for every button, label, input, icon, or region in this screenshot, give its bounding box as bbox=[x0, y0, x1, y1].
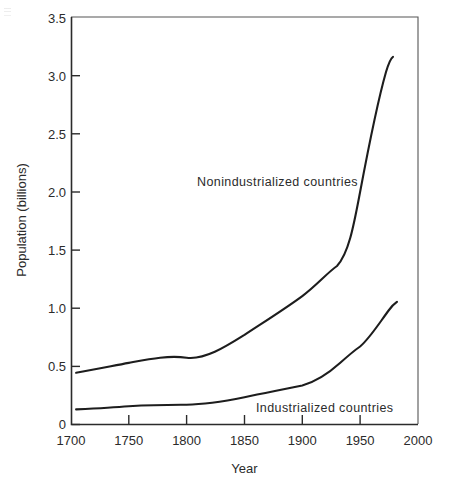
y-axis-tick-labels: 0 0.5 1.0 1.5 2.0 2.5 3.0 3.5 bbox=[48, 11, 66, 433]
y-tick-label-0.5: 0.5 bbox=[48, 359, 66, 374]
x-tick-label-1800: 1800 bbox=[172, 433, 201, 448]
chart-svg: 0 0.5 1.0 1.5 2.0 2.5 3.0 3.5 1700 1750 … bbox=[0, 0, 463, 490]
x-axis-title: Year bbox=[231, 461, 258, 476]
y-tick-label-1.0: 1.0 bbox=[48, 301, 66, 316]
y-tick-label-0: 0 bbox=[59, 417, 66, 432]
y-tick-label-2.5: 2.5 bbox=[48, 127, 66, 142]
x-tick-label-1950: 1950 bbox=[346, 433, 375, 448]
y-tick-label-3.5: 3.5 bbox=[48, 11, 66, 26]
series-label-industrialized: Industrialized countries bbox=[256, 401, 393, 415]
y-tick-label-3.0: 3.0 bbox=[48, 69, 66, 84]
x-axis-ticks bbox=[129, 415, 360, 425]
y-axis-title: Population (billions) bbox=[14, 163, 29, 276]
series-label-nonindustrialized: Nonindustrialized countries bbox=[197, 175, 358, 189]
scan-artifact bbox=[4, 8, 11, 22]
curve-nonindustrialized bbox=[76, 57, 393, 373]
population-growth-chart: 0 0.5 1.0 1.5 2.0 2.5 3.0 3.5 1700 1750 … bbox=[0, 0, 463, 490]
x-tick-label-1750: 1750 bbox=[114, 433, 143, 448]
curve-industrialized bbox=[76, 302, 397, 410]
x-axis-tick-labels: 1700 1750 1800 1850 1900 1950 2000 bbox=[57, 433, 433, 448]
y-tick-label-1.5: 1.5 bbox=[48, 243, 66, 258]
y-tick-label-2.0: 2.0 bbox=[48, 185, 66, 200]
x-tick-label-2000: 2000 bbox=[404, 433, 433, 448]
x-tick-label-1900: 1900 bbox=[288, 433, 317, 448]
x-tick-label-1700: 1700 bbox=[57, 433, 86, 448]
x-tick-label-1850: 1850 bbox=[230, 433, 259, 448]
